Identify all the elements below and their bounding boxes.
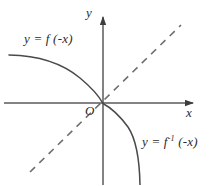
x-axis-label: x <box>186 106 192 119</box>
origin-label: O <box>85 104 94 117</box>
curve-label-f-inverse-exponent: -1 <box>168 134 175 143</box>
curve-label-f-inverse-neg-x: y = f-1 (-x) <box>142 135 198 148</box>
math-figure: y = f (-x) y = f-1 (-x) y x O <box>0 0 218 185</box>
line-y-equals-x <box>30 25 181 172</box>
curve-label-f-inverse-prefix: y = f <box>142 134 168 149</box>
curve-f-neg-x <box>9 55 103 104</box>
y-axis-label: y <box>86 6 92 19</box>
curve-label-f-neg-x: y = f (-x) <box>24 32 73 45</box>
curve-label-f-inverse-suffix: (-x) <box>175 134 198 149</box>
coordinate-plot <box>0 0 218 185</box>
curve-f-inverse-neg-x <box>103 104 140 186</box>
